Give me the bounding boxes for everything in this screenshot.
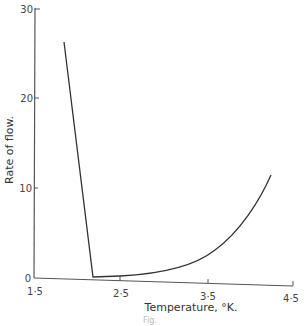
y-tick-20: 20 [20, 93, 33, 104]
rate-of-flow-curve [64, 42, 271, 277]
y-tick-10: 10 [19, 183, 32, 194]
line-chart: 30 20 10 0 Rate of flow. 1·5 2·5 3·5 4·5… [0, 0, 307, 326]
x-tick-4-5: 4·5 [283, 293, 299, 304]
figure-caption: Fig. [143, 316, 157, 325]
x-tick-1-5: 1·5 [27, 286, 43, 297]
y-tick-30: 30 [20, 4, 33, 15]
y-axis: 30 20 10 0 Rate of flow. [3, 4, 40, 284]
y-axis-title: Rate of flow. [3, 116, 16, 184]
x-axis: 1·5 2·5 3·5 4·5 Temperature, °K. [27, 276, 299, 314]
x-tick-2-5: 2·5 [113, 288, 129, 299]
x-axis-title: Temperature, °K. [144, 301, 238, 314]
y-tick-0: 0 [25, 273, 31, 284]
